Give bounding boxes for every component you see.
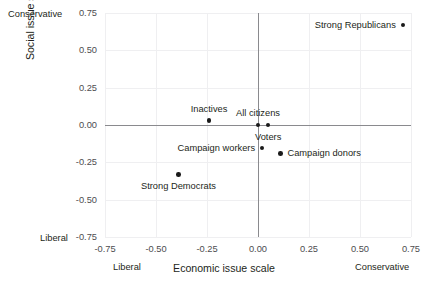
data-point-label: All citizens [236, 108, 280, 118]
plot-area: Strong RepublicansInactivesAll citizensV… [105, 13, 411, 237]
y-tick-label: -0.25 [47, 157, 97, 167]
data-point [266, 123, 271, 128]
x-tick-label: -0.25 [196, 244, 217, 254]
gridline-horizontal [105, 237, 411, 238]
data-point [278, 151, 283, 156]
data-point [260, 146, 265, 151]
x-tick-label: -0.75 [94, 244, 115, 254]
x-tick-label: -0.50 [145, 244, 166, 254]
gridline-vertical [411, 13, 412, 237]
x-axis-anchor-high: Conservative [355, 262, 409, 272]
y-tick-label: 0.75 [47, 8, 97, 18]
y-tick-label: 0.25 [47, 83, 97, 93]
data-point-label: Campaign workers [178, 143, 256, 153]
y-tick-label: 0.00 [47, 120, 97, 130]
y-tick-label: -0.50 [47, 195, 97, 205]
data-point [207, 118, 212, 123]
data-point [401, 23, 406, 28]
x-tick-label: 0.25 [300, 244, 318, 254]
x-axis-anchor-low: Liberal [113, 262, 141, 272]
data-point [176, 172, 181, 177]
x-axis-title-text: Economic issue scale [149, 262, 275, 274]
y-tick-label: -0.75 [47, 232, 97, 242]
data-point-label: Campaign donors [287, 148, 360, 158]
data-point-label: Inactives [191, 104, 228, 114]
data-point-label: Voters [255, 132, 281, 142]
scatter-plot-figure: Social issue scale Conservative Liberal … [0, 0, 424, 286]
x-tick-label: 0.50 [351, 244, 369, 254]
x-tick-label: 0.75 [402, 244, 420, 254]
x-tick-label: 0.00 [249, 244, 267, 254]
data-point-label: Strong Republicans [315, 20, 396, 30]
data-point-label: Strong Democrats [141, 181, 216, 191]
data-point [256, 123, 261, 128]
y-tick-label: 0.50 [47, 45, 97, 55]
